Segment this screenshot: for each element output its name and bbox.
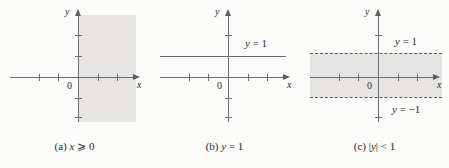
panel-a-y-tick: [75, 98, 82, 99]
panel-c-upper-line-label: y = 1: [395, 36, 417, 47]
panel-a: y x 0 (a) x ⩾ 0: [0, 0, 149, 168]
panel-c-x-tick: [417, 74, 418, 81]
panel-c-dashed-line-y-equals-1: [310, 53, 442, 54]
panel-c-shaded-band: [310, 53, 442, 97]
panel-a-y-axis-label: y: [65, 7, 69, 17]
panel-c-x-axis-label: x: [437, 80, 441, 90]
panel-a-x-tick: [39, 74, 40, 81]
panel-a-x-axis-label: x: [137, 80, 141, 90]
panel-b-x-tick: [208, 74, 209, 81]
panel-b-origin-label: 0: [217, 81, 222, 91]
panel-a-x-tick: [117, 74, 118, 81]
panel-c-caption-rest: < 1: [378, 140, 395, 152]
panel-c-plot: y x 0 y = 1 y = −1: [300, 0, 449, 135]
panel-b-y-axis: [228, 15, 229, 122]
panel-b: y x 0 y = 1 (b) y = 1: [150, 0, 299, 168]
panel-a-y-tick: [75, 56, 82, 57]
panel-c-caption: (c) |y| < 1: [300, 140, 449, 152]
panel-c-lower-line-label: y = −1: [392, 104, 420, 115]
panel-b-y-axis-arrow-icon: [225, 9, 231, 16]
panel-c: y x 0 y = 1 y = −1 (c) |y| < 1: [300, 0, 449, 168]
panel-b-y-tick: [225, 98, 232, 99]
panel-a-x-tick: [98, 74, 99, 81]
panel-a-y-axis: [78, 15, 79, 122]
panel-a-y-tick: [75, 117, 82, 118]
panel-c-caption-prefix: (c): [354, 140, 366, 152]
panel-b-line-y-equals-1: [160, 56, 286, 57]
panel-c-y-tick: [375, 117, 382, 118]
panel-c-x-axis: [310, 77, 434, 78]
panel-b-y-tick: [225, 35, 232, 36]
panel-b-y-axis-label: y: [215, 7, 219, 17]
panel-a-caption: (a) x ⩾ 0: [0, 140, 149, 153]
panel-a-caption-prefix: (a): [55, 140, 67, 152]
figure-container: y x 0 (a) x ⩾ 0: [0, 0, 449, 168]
panel-b-caption-rest: = 1: [226, 140, 243, 152]
panel-b-x-axis: [160, 77, 284, 78]
panel-b-line-label-rest: = 1: [250, 37, 267, 49]
panel-a-origin-label: 0: [67, 81, 72, 91]
panel-c-upper-label-rest: = 1: [400, 35, 417, 47]
panel-c-y-axis: [378, 15, 379, 122]
panel-a-x-tick: [58, 74, 59, 81]
panel-b-y-tick: [225, 117, 232, 118]
panel-c-y-axis-arrow-icon: [375, 9, 381, 16]
panel-a-plot: y x 0: [0, 0, 149, 135]
panel-b-caption-prefix: (b): [206, 140, 219, 152]
panel-b-x-tick: [189, 74, 190, 81]
panel-a-caption-rest: ⩾ 0: [74, 140, 94, 152]
panel-a-y-axis-arrow-icon: [75, 9, 81, 16]
panel-b-plot: y x 0 y = 1: [150, 0, 299, 135]
panel-c-y-axis-label: y: [365, 7, 369, 17]
panel-c-x-tick: [339, 74, 340, 81]
panel-a-y-tick: [75, 35, 82, 36]
panel-c-dashed-line-y-equals-minus-1: [310, 97, 442, 98]
panel-a-x-axis: [10, 77, 134, 78]
panel-b-x-tick: [267, 74, 268, 81]
panel-c-y-tick: [375, 35, 382, 36]
panel-b-x-tick: [248, 74, 249, 81]
panel-c-lower-label-rest: = −1: [397, 103, 420, 115]
panel-b-caption: (b) y = 1: [150, 140, 299, 152]
panel-c-x-tick: [398, 74, 399, 81]
panel-c-x-tick: [358, 74, 359, 81]
panel-a-shaded-region: [78, 15, 136, 122]
panel-b-line-label: y = 1: [245, 38, 267, 49]
panel-c-origin-label: 0: [367, 81, 372, 91]
panel-b-x-axis-label: x: [287, 80, 291, 90]
